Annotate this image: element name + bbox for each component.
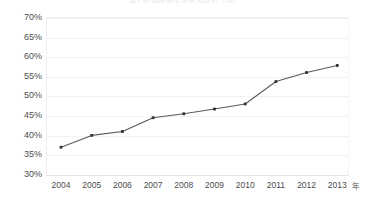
gridline [47,18,348,19]
chart-title: 图1 我国城镇化率变化趋势（年） [0,0,370,4]
gridline [47,77,348,78]
y-axis-tick-label: 70% [2,13,42,22]
y-axis-tick-label: 55% [2,72,42,81]
gridline [47,116,348,117]
y-axis-tick-label: 65% [2,33,42,42]
y-axis-tick-label: 35% [2,150,42,159]
gridline [47,136,348,137]
line-chart: 图1 我国城镇化率变化趋势（年） 70% 65% 60% 55% 50% 45%… [0,0,370,208]
gridline [47,96,348,97]
x-axis-unit-label: 年 [352,183,359,191]
gridline [47,57,348,58]
gridline [47,155,348,156]
y-axis-tick-label: 40% [2,131,42,140]
y-axis-tick-label: 30% [2,170,42,179]
gridline [47,38,348,39]
plot-area [46,17,349,176]
y-axis-tick-label: 45% [2,111,42,120]
y-axis-tick-label: 60% [2,52,42,61]
y-axis-tick-label: 50% [2,91,42,100]
